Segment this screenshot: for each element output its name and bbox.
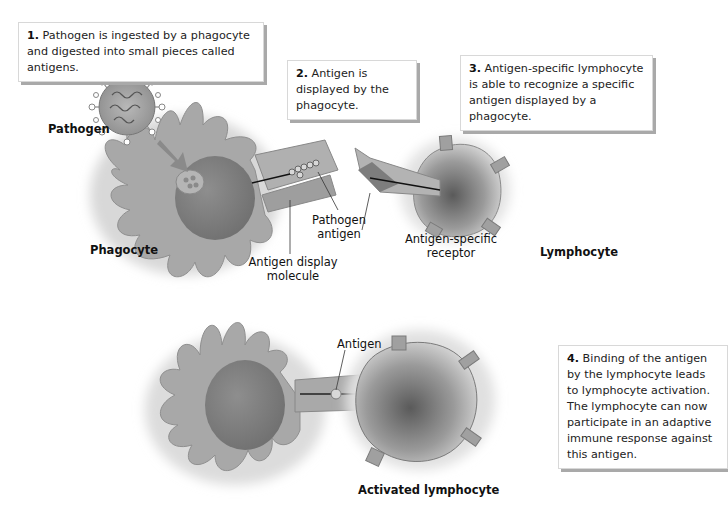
step-3-number: 3. [469,62,481,75]
step-4-number: 4. [567,352,579,365]
label-phagocyte: Phagocyte [90,243,158,257]
label-antigen-display-molecule: Antigen display molecule [248,255,338,283]
label-pathogen-antigen: Pathogen antigen [308,213,370,241]
step-2-text: Antigen is displayed by the phagocyte. [296,67,389,112]
step-2-number: 2. [296,67,308,80]
lymphocyte-top [355,136,510,242]
label-antigen: Antigen [337,337,382,351]
step-3-text: Antigen-specific lymphocyte is able to r… [469,62,644,123]
step-1-number: 1. [27,29,39,42]
activated-lymphocyte [345,330,495,470]
phagocyte-bottom [145,323,360,486]
step-3-callout: 3. Antigen-specific lymphocyte is able t… [460,55,653,131]
label-antigen-specific-receptor: Antigen-specific receptor [403,232,499,260]
label-activated-lymphocyte: Activated lymphocyte [358,483,499,497]
label-lymphocyte: Lymphocyte [540,245,618,259]
step-1-text: Pathogen is ingested by a phagocyte and … [27,29,250,74]
step-4-callout: 4. Binding of the antigen by the lymphoc… [558,345,728,469]
step-1-callout: 1. Pathogen is ingested by a phagocyte a… [18,22,264,82]
step-4-text: Binding of the antigen by the lymphocyte… [567,352,712,461]
label-pathogen: Pathogen [48,122,110,136]
step-2-callout: 2. Antigen is displayed by the phagocyte… [287,60,417,120]
